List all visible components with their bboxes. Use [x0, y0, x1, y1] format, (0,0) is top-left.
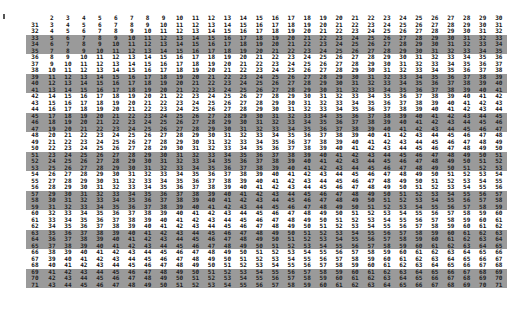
table-cell: 47	[108, 282, 124, 289]
table-cell: 65	[395, 282, 411, 289]
table-cell: 60	[315, 282, 331, 289]
table-cell: 54	[219, 282, 235, 289]
table-cell: 48	[124, 282, 140, 289]
table-cell: 45	[76, 282, 92, 289]
table-cell: 68	[443, 282, 459, 289]
table-cell: 49	[140, 282, 156, 289]
table-cell: 69	[459, 282, 475, 289]
table-cell: 53	[203, 282, 219, 289]
row-label: 71	[26, 282, 44, 289]
table-cell: 46	[92, 282, 108, 289]
table-cell: 59	[299, 282, 315, 289]
table-cell: 44	[60, 282, 76, 289]
table-row: 7143444546474849505152535455565758596061…	[26, 282, 507, 289]
table-cell: 63	[363, 282, 379, 289]
table-cell: 58	[283, 282, 299, 289]
table-cell: 70	[475, 282, 491, 289]
scanned-page: 2345678910111213141516171819202122232425…	[0, 0, 507, 317]
number-table: 2345678910111213141516171819202122232425…	[26, 15, 507, 288]
table-cell: 51	[172, 282, 188, 289]
table-cell: 43	[44, 282, 60, 289]
table-cell: 62	[347, 282, 363, 289]
table-cell: 56	[251, 282, 267, 289]
table-cell: 64	[379, 282, 395, 289]
table-cell: 71	[491, 282, 507, 289]
table-cell: 50	[156, 282, 172, 289]
table-cell: 67	[427, 282, 443, 289]
table-cell: 57	[267, 282, 283, 289]
table-cell: 52	[188, 282, 204, 289]
margin-mark	[3, 14, 5, 19]
table-cell: 55	[235, 282, 251, 289]
table-cell: 66	[411, 282, 427, 289]
table-cell: 61	[331, 282, 347, 289]
